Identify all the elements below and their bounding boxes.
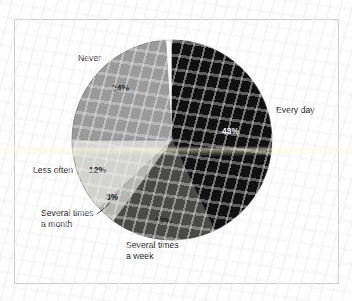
slice-value-several-times-a-week: 17% (155, 216, 172, 226)
slice-label-line-2: a week (126, 251, 154, 261)
slice-value-less-often: 12% (89, 165, 106, 175)
slice-value-never: 24% (112, 83, 129, 93)
slice-label-never: Never (78, 53, 101, 64)
slice-label-line-2: a month (41, 219, 72, 229)
slice-label-several-times-a-month: Several timesa month (41, 208, 94, 229)
slice-value-every-day: 43% (222, 126, 239, 136)
slice-value-several-times-a-month: 3% (106, 192, 118, 202)
scanned-page: Never Every day Less often Several times… (0, 0, 352, 301)
slice-label-every-day: Every day (276, 105, 315, 116)
slice-label-line-1: Several times (126, 240, 179, 250)
slice-label-less-often: Less often (33, 165, 73, 176)
slice-label-line-1: Several times (41, 208, 94, 218)
slice-label-several-times-a-week: Several timesa week (126, 240, 179, 261)
